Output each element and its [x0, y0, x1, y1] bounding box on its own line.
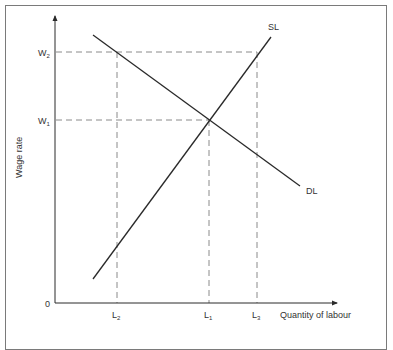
l3-label: L3: [252, 310, 261, 321]
y-axis-title: Wage rate: [14, 137, 24, 178]
x-axis-title: Quantity of labour: [280, 310, 351, 320]
guide-lines: [56, 52, 257, 303]
l2-label: L2: [112, 310, 121, 321]
sl-label: SL: [268, 22, 279, 32]
l1-label: L1: [204, 310, 213, 321]
demand-curve-dl: [93, 35, 300, 186]
supply-curve-sl: [93, 37, 271, 279]
origin-label: 0: [45, 299, 50, 309]
w2-label: W2: [38, 48, 51, 59]
w1-label: W1: [38, 116, 51, 127]
dl-label: DL: [306, 186, 318, 196]
